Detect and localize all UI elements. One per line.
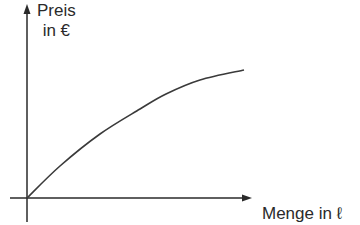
y-axis-label-line2: in € bbox=[37, 21, 76, 41]
x-axis-label: Menge in ℓ bbox=[262, 204, 342, 224]
x-axis-arrow-icon bbox=[242, 195, 252, 202]
y-axis-arrow-icon bbox=[24, 4, 31, 14]
price-curve bbox=[27, 70, 244, 198]
y-axis-label: Preis in € bbox=[37, 1, 76, 41]
y-axis-label-line1: Preis bbox=[37, 1, 76, 21]
